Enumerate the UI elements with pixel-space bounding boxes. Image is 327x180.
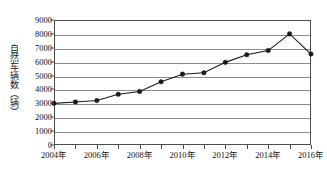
y-axis-tick-mark xyxy=(50,103,54,104)
y-axis-tick-mark xyxy=(50,61,54,62)
gridline xyxy=(55,132,310,133)
y-axis-tick-mark xyxy=(50,89,54,90)
x-axis-tick-mark xyxy=(247,145,248,149)
plot-area xyxy=(54,20,311,145)
gridline xyxy=(55,118,310,119)
x-axis-tick-mark xyxy=(54,145,55,149)
y-axis-tick-label: 6000 xyxy=(22,57,52,66)
y-axis-tick-label: 9000 xyxy=(22,16,52,25)
y-axis-tick-label: 2000 xyxy=(22,113,52,122)
y-axis-tick-mark xyxy=(50,131,54,132)
y-axis-tick-label: 3000 xyxy=(22,99,52,108)
gridline xyxy=(55,77,310,78)
y-axis-tick-mark xyxy=(50,20,54,21)
y-axis-tick-label: 1000 xyxy=(22,127,52,136)
y-axis-tick-label: 5000 xyxy=(22,71,52,80)
x-axis-tick-label: 2004年 xyxy=(41,150,67,160)
y-axis-tick-label: 8000 xyxy=(22,30,52,39)
x-axis-tick-mark xyxy=(140,145,141,149)
y-axis-tick-label: 0 xyxy=(22,141,52,150)
x-axis-tick-label: 2016年 xyxy=(298,150,324,160)
x-axis-tick-label: 2014年 xyxy=(255,150,281,160)
y-axis-title: 自然车辆数（辆） xyxy=(6,18,22,142)
x-axis-tick-mark xyxy=(268,145,269,149)
gridline xyxy=(55,63,310,64)
gridline xyxy=(55,90,310,91)
y-axis-tick-label: 7000 xyxy=(22,44,52,53)
x-axis-tick-mark xyxy=(75,145,76,149)
x-axis-tick-mark xyxy=(311,145,312,149)
line-chart: 自然车辆数（辆） 0100020003000400050006000700080… xyxy=(0,0,327,180)
x-axis-tick-mark xyxy=(290,145,291,149)
x-axis-tick-label: 2008年 xyxy=(127,150,153,160)
x-axis-tick-mark xyxy=(204,145,205,149)
y-axis-tick-mark xyxy=(50,47,54,48)
x-axis-tick-label: 2010年 xyxy=(170,150,196,160)
gridline xyxy=(55,49,310,50)
x-axis-tick-mark xyxy=(225,145,226,149)
gridline xyxy=(55,35,310,36)
y-axis-tick-label: 4000 xyxy=(22,85,52,94)
x-axis-tick-mark xyxy=(97,145,98,149)
y-axis-tick-mark xyxy=(50,117,54,118)
x-axis-tick-mark xyxy=(118,145,119,149)
y-axis-tick-mark xyxy=(50,33,54,34)
y-axis-tick-mark xyxy=(50,75,54,76)
x-axis-tick-label: 2012年 xyxy=(212,150,238,160)
gridline xyxy=(55,104,310,105)
x-axis-tick-mark xyxy=(183,145,184,149)
x-axis-tick-label: 2006年 xyxy=(84,150,110,160)
x-axis-tick-mark xyxy=(161,145,162,149)
